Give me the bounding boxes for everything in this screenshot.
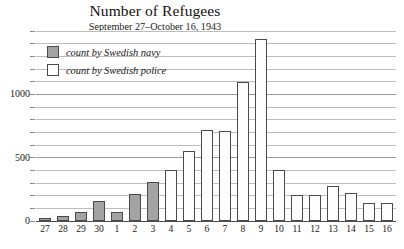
- legend-item-2: count by Swedish police: [47, 62, 166, 78]
- bar-8: [237, 82, 250, 221]
- legend-swatch-navy: [47, 46, 59, 58]
- y-tick-1500: [30, 31, 35, 32]
- y-tick-400: [30, 170, 35, 171]
- legend-item-1: count by Swedish navy: [47, 44, 166, 60]
- bar-14: [345, 193, 358, 222]
- bar-29: [75, 212, 88, 222]
- y-tick-1100: [30, 81, 35, 82]
- chart-title: Number of Refugees: [0, 2, 310, 20]
- bar-30: [93, 201, 106, 221]
- y-tick-1000: [30, 94, 35, 95]
- bar-12: [309, 195, 322, 221]
- bar-16: [381, 203, 394, 221]
- legend-label-police: count by Swedish police: [66, 65, 166, 76]
- bar-1: [111, 212, 124, 221]
- bar-2: [129, 194, 142, 221]
- y-tick-900: [30, 107, 35, 108]
- bar-10: [273, 170, 286, 221]
- chart-legend: count by Swedish navycount by Swedish po…: [47, 44, 166, 80]
- bar-3: [147, 182, 160, 221]
- y-tick-0: [30, 221, 35, 222]
- bar-5: [183, 151, 196, 221]
- title-block: Number of Refugees September 27–October …: [0, 2, 310, 33]
- y-tick-300: [30, 183, 35, 184]
- y-tick-100: [30, 208, 35, 209]
- y-tick-800: [30, 119, 35, 120]
- bar-11: [291, 195, 304, 221]
- bar-27: [39, 218, 52, 221]
- y-tick-500: [30, 157, 35, 158]
- y-tick-600: [30, 145, 35, 146]
- bar-6: [201, 130, 214, 221]
- y-axis-label-1000: 1000: [10, 89, 30, 99]
- bar-7: [219, 131, 232, 221]
- legend-label-navy: count by Swedish navy: [66, 47, 160, 58]
- x-axis-label-16: 16: [375, 224, 399, 234]
- y-tick-1400: [30, 43, 35, 44]
- bar-9: [255, 39, 268, 221]
- y-tick-200: [30, 195, 35, 196]
- y-tick-1200: [30, 69, 35, 70]
- legend-swatch-police: [47, 64, 59, 76]
- y-axis-label-500: 500: [15, 153, 30, 163]
- bar-4: [165, 170, 178, 221]
- bar-13: [327, 186, 340, 221]
- y-tick-700: [30, 132, 35, 133]
- y-tick-1300: [30, 56, 35, 57]
- bar-15: [363, 203, 376, 221]
- chart-figure: Number of Refugees September 27–October …: [0, 0, 404, 249]
- bar-28: [57, 216, 70, 221]
